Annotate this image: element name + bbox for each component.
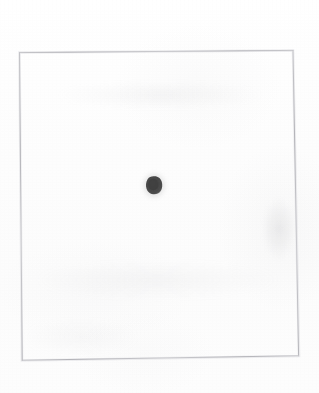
center-dot-icon [0,0,319,393]
scanned-card-image [0,0,319,393]
center-dot-layer [0,0,319,393]
